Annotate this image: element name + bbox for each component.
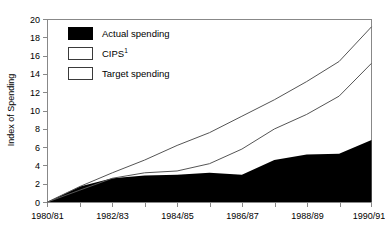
x-tick-label: 1984/85 — [161, 211, 194, 221]
y-tick-label: 14 — [30, 69, 40, 79]
legend-swatch-cips — [68, 47, 93, 60]
chart-legend: Actual spending CIPS1 Target spending — [68, 24, 218, 84]
legend-swatch-target-spending — [68, 67, 93, 80]
legend-footnote-marker-cips: 1 — [124, 46, 128, 53]
legend-item-target-spending: Target spending — [68, 64, 218, 82]
legend-item-actual-spending: Actual spending — [68, 24, 218, 42]
chart-figure: 0 2 4 6 8 10 12 14 16 18 20 Index of Spe… — [0, 0, 385, 240]
y-tick-label: 12 — [30, 88, 40, 98]
y-tick-label: 10 — [30, 106, 40, 116]
y-tick-marks — [43, 20, 47, 203]
legend-label-actual-spending: Actual spending — [102, 28, 170, 39]
y-tick-labels: 0 2 4 6 8 10 12 14 16 18 20 — [30, 15, 40, 208]
legend-label-cips: CIPS1 — [102, 48, 128, 59]
y-tick-label: 20 — [30, 15, 40, 25]
legend-label-target-spending: Target spending — [102, 68, 170, 79]
y-axis-title: Index of Spending — [6, 74, 16, 147]
y-tick-label: 4 — [35, 161, 40, 171]
y-tick-label: 18 — [30, 33, 40, 43]
y-tick-label: 6 — [35, 143, 40, 153]
x-tick-label: 1990/91 — [353, 211, 385, 221]
legend-label-cips-text: CIPS — [102, 48, 124, 59]
legend-item-cips: CIPS1 — [68, 44, 218, 62]
x-tick-label: 1986/87 — [226, 211, 259, 221]
x-tick-label: 1980/81 — [31, 211, 64, 221]
y-tick-label: 8 — [35, 124, 40, 134]
x-tick-label: 1982/83 — [96, 211, 129, 221]
y-tick-label: 0 — [35, 198, 40, 208]
x-tick-label: 1988/89 — [291, 211, 324, 221]
y-tick-label: 2 — [35, 179, 40, 189]
x-tick-labels: 1980/81 1982/83 1984/85 1986/87 1988/89 … — [31, 211, 385, 221]
legend-swatch-actual-spending — [68, 27, 93, 40]
y-tick-label: 16 — [30, 51, 40, 61]
